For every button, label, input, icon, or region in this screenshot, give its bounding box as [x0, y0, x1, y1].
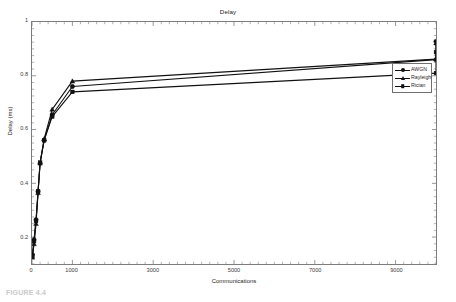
plot-canvas: [32, 22, 436, 264]
data-point-marker: [32, 254, 34, 258]
legend-item-rician[interactable]: Rician: [394, 82, 430, 90]
x-tick-label: 3000: [147, 268, 159, 274]
legend-item-rayleigh[interactable]: Rayleigh: [394, 74, 430, 82]
figure-caption: FIGURE 4.4: [6, 289, 46, 298]
x-tick-label: 5000: [228, 268, 240, 274]
series-rician: [32, 50, 436, 258]
x-tick-label: 0: [29, 268, 32, 274]
y-tick-label: 0.4: [20, 181, 28, 187]
data-point-marker: [70, 84, 74, 88]
y-tick-label: 0.8: [20, 72, 28, 78]
figure-canvas: Delay 0.20.40.60.81 01000300050007000900…: [0, 0, 456, 302]
legend-swatch-circle-icon: [395, 66, 410, 74]
chart-title: Delay: [0, 8, 456, 15]
legend-swatch-triangle-icon: [395, 74, 410, 82]
x-tick-label: 9000: [390, 268, 402, 274]
data-point-marker: [50, 115, 54, 119]
legend-label: Rician: [410, 83, 425, 88]
legend-label: Rayleigh: [410, 75, 431, 80]
plot-area: [31, 21, 437, 265]
data-point-marker: [71, 90, 75, 94]
y-tick-label: 0.6: [20, 126, 28, 132]
legend-label: AWGN: [410, 67, 427, 72]
data-point-marker: [32, 239, 36, 243]
y-tick-label: 1: [25, 18, 28, 24]
data-point-marker: [434, 71, 436, 75]
x-tick-label: 7000: [309, 268, 321, 274]
data-point-marker: [34, 219, 38, 223]
data-point-marker: [36, 190, 40, 194]
y-axis-label: Delay (ms): [7, 93, 13, 149]
series-rayleigh: [32, 41, 436, 260]
x-axis-label: Communications: [31, 278, 437, 284]
y-tick-label: 0.2: [20, 235, 28, 241]
chart-legend: AWGNRayleighRician: [392, 63, 432, 93]
x-axis-tick-labels: 010003000500070009000: [31, 268, 437, 278]
data-point-marker: [38, 161, 42, 165]
legend-item-awgn[interactable]: AWGN: [394, 66, 430, 74]
data-point-marker: [434, 50, 436, 54]
axis-ticks: [32, 22, 436, 264]
legend-swatch-square-icon: [395, 82, 410, 90]
x-tick-label: 1000: [65, 268, 77, 274]
data-point-marker: [42, 138, 46, 142]
